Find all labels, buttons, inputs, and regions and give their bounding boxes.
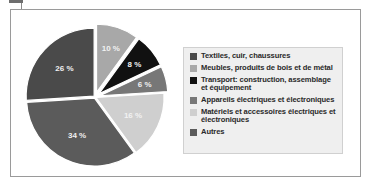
legend-swatch bbox=[190, 53, 197, 60]
legend-label: Textiles, cuir, chaussures bbox=[201, 52, 290, 60]
pie-slice-label: 6 % bbox=[138, 80, 152, 89]
legend-swatch bbox=[190, 77, 197, 84]
legend-label: Matériels et accessoires électriques et … bbox=[201, 108, 336, 124]
legend-item-meubles: Meubles, produits de bois et de métal bbox=[190, 64, 336, 72]
pie-slice-label: 10 % bbox=[102, 44, 120, 53]
legend-item-autres: Autres bbox=[190, 128, 336, 136]
legend-label: Meubles, produits de bois et de métal bbox=[201, 64, 333, 72]
legend-swatch bbox=[190, 129, 197, 136]
legend-label: Appareils électriques et électroniques bbox=[201, 96, 334, 104]
legend-label: Transport: construction, assemblage et é… bbox=[201, 76, 336, 92]
legend-label: Autres bbox=[201, 128, 224, 136]
pie-slice-label: 8 % bbox=[128, 60, 142, 69]
legend-item-transport: Transport: construction, assemblage et é… bbox=[190, 76, 336, 92]
legend-swatch bbox=[190, 65, 197, 72]
legend-swatch bbox=[190, 97, 197, 104]
legend-item-textiles: Textiles, cuir, chaussures bbox=[190, 52, 336, 60]
pie-slice-label: 16 % bbox=[124, 111, 142, 120]
legend-swatch bbox=[190, 109, 197, 116]
pie-slice-label: 34 % bbox=[68, 131, 86, 140]
legend-item-appareils: Appareils électriques et électroniques bbox=[190, 96, 336, 104]
chart-legend: Textiles, cuir, chaussures Meubles, prod… bbox=[183, 47, 343, 154]
pie-slice-label: 26 % bbox=[55, 64, 73, 73]
legend-item-materiels: Matériels et accessoires électriques et … bbox=[190, 108, 336, 124]
